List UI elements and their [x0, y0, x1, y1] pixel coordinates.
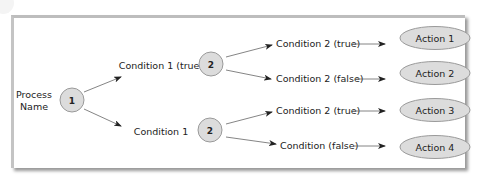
branch-2-step-number: 2 — [207, 126, 213, 136]
action-4-label: Action 4 — [416, 142, 455, 153]
outcome-2-condition: Condition 2 (false) — [276, 73, 363, 84]
arrow-branch-2-to-outcome-2 — [226, 137, 276, 144]
action-2-label: Action 2 — [416, 68, 455, 79]
arrow-branch-1-to-outcome-1 — [226, 45, 272, 57]
arrow-root-to-branch-2 — [84, 109, 121, 126]
arrow-branch-2-to-outcome-1 — [226, 112, 272, 124]
arrow-branch-1-to-outcome-2 — [226, 70, 271, 79]
outcome-3-condition: Condition 2 (true) — [276, 105, 360, 116]
root-label-line-1: Process — [16, 89, 52, 100]
root-label-line-2: Name — [20, 101, 48, 112]
outcome-1-condition: Condition 2 (true) — [276, 38, 360, 49]
root-step-number: 1 — [69, 96, 75, 106]
branch-2-condition: Condition 1 — [134, 126, 188, 137]
decision-tree-diagram: Process Name 1 Condition 1 (true) 2 Cond… — [0, 0, 481, 178]
branch-1-condition: Condition 1 (true) — [119, 60, 203, 71]
action-1-label: Action 1 — [416, 33, 455, 44]
outcome-4-condition: Condition (false) — [280, 140, 358, 151]
action-3-label: Action 3 — [416, 105, 455, 116]
arrow-root-to-branch-1 — [84, 77, 121, 92]
branch-1-step-number: 2 — [208, 60, 214, 70]
